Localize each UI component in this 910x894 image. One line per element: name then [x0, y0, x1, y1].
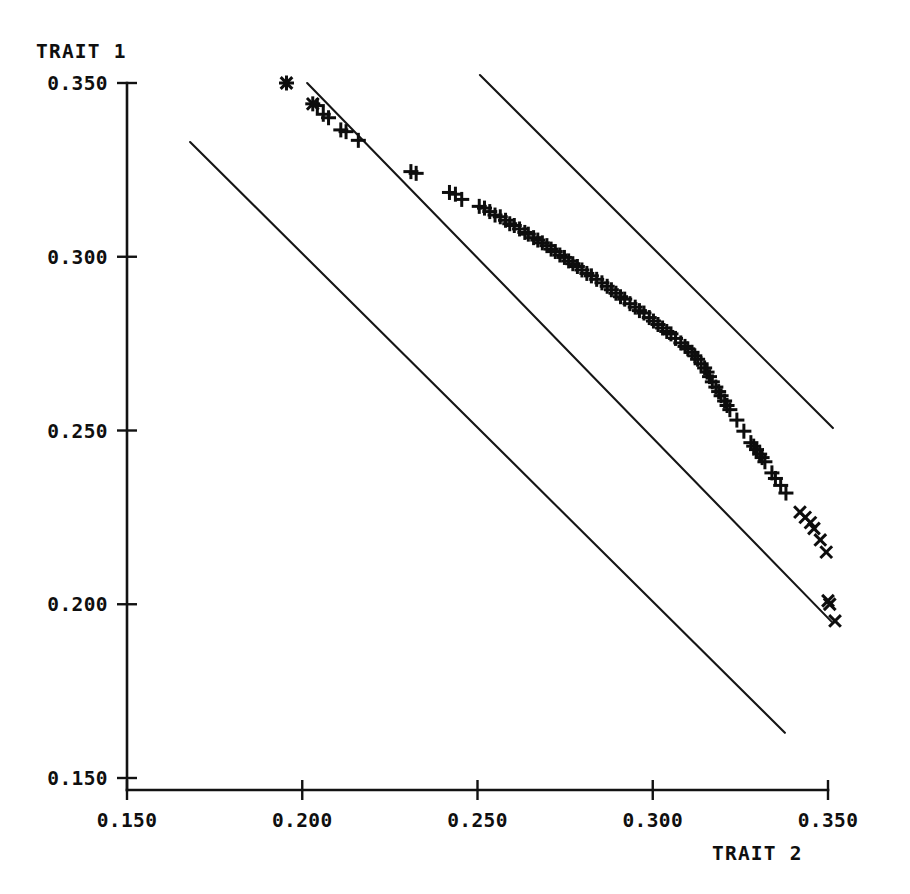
data-point-plus [736, 424, 751, 439]
y-tick-label: 0.250 [47, 420, 108, 443]
y-tick-label: 0.300 [47, 246, 108, 269]
lower-bound-line [190, 142, 785, 733]
data-point-cross [820, 546, 832, 558]
y-tick-label: 0.200 [47, 593, 108, 616]
x-tick-label: 0.350 [798, 809, 859, 832]
y-tick-label: 0.350 [47, 72, 108, 95]
data-point-cross [814, 534, 826, 546]
x-tick-label: 0.250 [447, 809, 508, 832]
x-tick-label: 0.200 [272, 809, 333, 832]
x-tick-label: 0.300 [622, 809, 683, 832]
scatter-plot-figure: 0.1500.2000.2500.3000.350 0.1500.2000.25… [0, 0, 910, 894]
y-axis-tick-labels: 0.1500.2000.2500.3000.350 [47, 72, 108, 790]
x-tick-label: 0.150 [97, 809, 158, 832]
data-point-plus [351, 133, 366, 148]
data-markers-plus [279, 76, 793, 501]
y-tick-label: 0.150 [47, 767, 108, 790]
x-axis-tick-labels: 0.1500.2000.2500.3000.350 [97, 809, 859, 832]
data-point-plus [729, 413, 744, 428]
reference-lines-group [190, 75, 833, 733]
y-axis-title: TRAIT 1 [36, 40, 127, 63]
chart-canvas: 0.1500.2000.2500.3000.350 0.1500.2000.25… [0, 0, 910, 894]
x-axis-title: TRAIT 2 [712, 842, 803, 865]
axis-spines [127, 83, 828, 790]
upper-bound-line [480, 75, 833, 428]
